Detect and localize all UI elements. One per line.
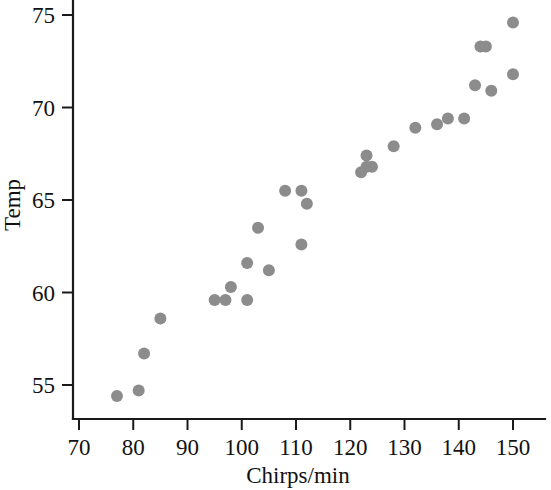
x-axis-title: Chirps/min xyxy=(246,463,350,488)
data-point xyxy=(507,68,519,80)
data-point xyxy=(209,294,221,306)
data-point xyxy=(485,85,497,97)
x-tick-label: 140 xyxy=(442,435,477,460)
x-tick-label: 90 xyxy=(176,435,199,460)
data-point xyxy=(154,312,166,324)
x-tick-label: 130 xyxy=(387,435,422,460)
data-point xyxy=(252,222,264,234)
x-tick-label: 100 xyxy=(225,435,260,460)
scatter-chart: 5560657075 708090100110120130140150 Chir… xyxy=(0,0,551,490)
y-tick-label: 55 xyxy=(32,373,55,398)
x-tick-label: 150 xyxy=(496,435,531,460)
data-point xyxy=(366,161,378,173)
data-point xyxy=(480,40,492,52)
data-point xyxy=(295,238,307,250)
y-axis-title: Temp xyxy=(0,179,25,231)
data-point xyxy=(431,118,443,130)
x-axis-ticks: 708090100110120130140150 xyxy=(68,419,531,460)
data-point xyxy=(133,385,145,397)
data-point xyxy=(469,79,481,91)
data-point xyxy=(219,294,231,306)
data-point xyxy=(409,122,421,134)
x-tick-label: 110 xyxy=(279,435,313,460)
data-point xyxy=(301,198,313,210)
x-tick-label: 120 xyxy=(333,435,368,460)
data-point xyxy=(361,150,373,162)
y-tick-label: 75 xyxy=(32,3,55,28)
data-point xyxy=(388,140,400,152)
data-points xyxy=(111,16,519,402)
y-tick-label: 70 xyxy=(32,96,55,121)
data-point xyxy=(241,294,253,306)
x-tick-label: 70 xyxy=(68,435,91,460)
plot-area: 5560657075 708090100110120130140150 Chir… xyxy=(0,0,551,490)
y-tick-label: 60 xyxy=(32,281,55,306)
data-point xyxy=(442,113,454,125)
data-point xyxy=(279,185,291,197)
x-tick-label: 80 xyxy=(122,435,145,460)
data-point xyxy=(111,390,123,402)
data-point xyxy=(263,264,275,276)
data-point xyxy=(138,348,150,360)
y-tick-label: 65 xyxy=(32,188,55,213)
data-point xyxy=(295,185,307,197)
data-point xyxy=(225,281,237,293)
data-point xyxy=(458,113,470,125)
y-axis-ticks: 5560657075 xyxy=(32,3,73,398)
data-point xyxy=(241,257,253,269)
data-point xyxy=(507,16,519,28)
